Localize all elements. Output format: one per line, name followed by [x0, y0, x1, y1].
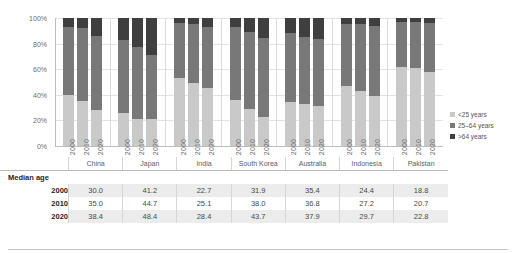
bar-segment [63, 18, 74, 27]
table-row: 201035.044.725.138.036.827.220.7 [0, 197, 448, 210]
table-row-label: 2020 [0, 210, 69, 223]
bar-segment [299, 18, 310, 37]
bar-segment [244, 32, 255, 109]
bar-india-2010[interactable] [188, 18, 199, 146]
bar-segment [118, 40, 129, 113]
legend-item[interactable]: <25 years [450, 110, 516, 119]
bar-segment [285, 18, 296, 33]
bar-south-korea-2000[interactable] [230, 18, 241, 146]
bar-japan-2020[interactable] [146, 18, 157, 146]
table-cell-median-age: 18.8 [394, 184, 448, 197]
bar-indonesia-2000[interactable] [341, 18, 352, 146]
y-tick-label: 0% [37, 143, 47, 150]
bar-segment [202, 18, 213, 27]
bar-australia-2000[interactable] [285, 18, 296, 146]
table-cell-median-age: 28.4 [177, 210, 231, 223]
bar-segment [63, 27, 74, 95]
bar-segment [410, 68, 421, 146]
legend-swatch-icon [450, 134, 455, 139]
plot-area [55, 18, 443, 146]
legend-label: >64 years [458, 132, 487, 141]
bar-segment [146, 18, 157, 55]
bar-pakistan-2000[interactable] [396, 18, 407, 146]
bar-segment [174, 78, 185, 146]
bar-india-2020[interactable] [202, 18, 213, 146]
table-column-header: China [69, 157, 123, 171]
table-row-label: 2010 [0, 197, 69, 210]
bar-pakistan-2020[interactable] [424, 18, 435, 146]
legend-item[interactable]: >64 years [450, 132, 516, 141]
bar-group-china [55, 18, 111, 146]
bar-china-2020[interactable] [91, 18, 102, 146]
legend-swatch-icon [450, 112, 455, 117]
bar-segment [202, 88, 213, 146]
table-cell-median-age: 20.7 [394, 197, 448, 210]
bar-indonesia-2010[interactable] [355, 18, 366, 146]
table-cell-median-age: 25.1 [177, 197, 231, 210]
bar-segment [341, 86, 352, 146]
bar-australia-2010[interactable] [299, 18, 310, 146]
bar-group-south-korea [222, 18, 278, 146]
bar-australia-2020[interactable] [313, 18, 324, 146]
bar-pakistan-2010[interactable] [410, 18, 421, 146]
bar-segment [188, 24, 199, 83]
bar-segment [396, 22, 407, 67]
bar-segment [146, 55, 157, 119]
bar-segment [313, 18, 324, 38]
bar-segment [132, 47, 143, 119]
bar-segment [118, 18, 129, 40]
bar-india-2000[interactable] [174, 18, 185, 146]
table-corner-cell [0, 157, 69, 171]
bar-china-2010[interactable] [77, 18, 88, 146]
bar-segment [188, 83, 199, 146]
bar-segment [313, 39, 324, 107]
bar-segment [91, 18, 102, 36]
legend-item[interactable]: 25–64 years [450, 121, 516, 130]
bar-group-india [166, 18, 222, 146]
table-cell-median-age: 35.4 [285, 184, 339, 197]
bar-group-indonesia [333, 18, 389, 146]
bar-china-2000[interactable] [63, 18, 74, 146]
table-column-header: Pakistan [394, 157, 448, 171]
bar-segment [202, 27, 213, 88]
bar-segment [174, 23, 185, 78]
table-cell-median-age: 35.0 [69, 197, 123, 210]
bar-group-japan [111, 18, 167, 146]
table-cell-median-age: 27.2 [340, 197, 394, 210]
bar-group-pakistan [388, 18, 443, 146]
y-tick-label: 60% [33, 66, 47, 73]
bar-segment [285, 33, 296, 102]
bar-japan-2000[interactable] [118, 18, 129, 146]
table-cell-median-age: 36.8 [285, 197, 339, 210]
bar-group-australia [277, 18, 333, 146]
table-cell-median-age: 41.2 [123, 184, 177, 197]
table-column-header: Australia [285, 157, 339, 171]
bar-south-korea-2010[interactable] [244, 18, 255, 146]
y-axis: 0%20%40%60%80%100% [0, 18, 52, 146]
bar-segment [77, 28, 88, 101]
table-cell-median-age: 31.9 [231, 184, 285, 197]
stacked-bar-chart: 0%20%40%60%80%100% 200020102020200020102… [0, 8, 516, 156]
table-row: 202038.448.428.443.737.929.722.8 [0, 210, 448, 223]
legend: <25 years25–64 years>64 years [450, 110, 516, 143]
table-cell-median-age: 22.8 [394, 210, 448, 223]
bar-groups [55, 18, 443, 146]
bar-segment [355, 91, 366, 146]
table-cell-median-age: 24.4 [340, 184, 394, 197]
bottom-rule [8, 249, 508, 250]
bar-segment [258, 18, 269, 38]
table-cell-median-age: 22.7 [177, 184, 231, 197]
median-age-table: ChinaJapanIndiaSouth KoreaAustraliaIndon… [0, 157, 448, 223]
bar-segment [132, 18, 143, 47]
table-header-row: ChinaJapanIndiaSouth KoreaAustraliaIndon… [0, 157, 448, 171]
bar-japan-2010[interactable] [132, 18, 143, 146]
y-tick-label: 40% [33, 91, 47, 98]
table-title-spacer [69, 171, 449, 185]
table-column-header: Japan [123, 157, 177, 171]
bar-indonesia-2020[interactable] [369, 18, 380, 146]
bar-segment [230, 27, 241, 100]
table-cell-median-age: 37.9 [285, 210, 339, 223]
bar-segment [299, 37, 310, 104]
chart-page: 0%20%40%60%80%100% 200020102020200020102… [0, 0, 516, 253]
bar-south-korea-2020[interactable] [258, 18, 269, 146]
